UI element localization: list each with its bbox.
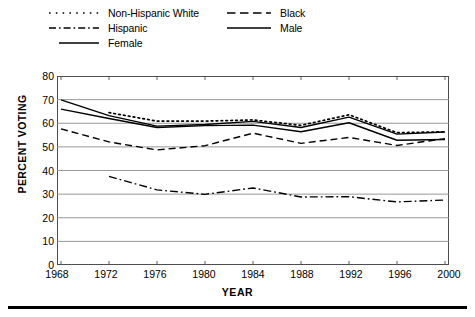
y-tick-20: 20	[28, 213, 54, 223]
legend-key-dash-dot-icon	[48, 22, 100, 34]
legend-label-hispanic: Hispanic	[108, 22, 147, 34]
plot-area	[57, 76, 449, 265]
x-tick-1980: 1980	[184, 269, 224, 280]
chart-legend: Non-Hispanic White Hispanic Female	[48, 6, 348, 52]
x-tick-1976: 1976	[135, 269, 175, 280]
y-axis-tick-labels: 0 10 20 30 40 50 60 70 80	[26, 76, 54, 266]
legend-label-male: Male	[280, 22, 302, 34]
y-tick-70: 70	[28, 95, 54, 105]
x-tick-1968: 1968	[37, 269, 77, 280]
legend-item-hispanic: Hispanic	[48, 21, 147, 35]
legend-label-non-hispanic-white: Non-Hispanic White	[108, 7, 199, 19]
y-tick-80: 80	[28, 71, 54, 81]
legend-item-non-hispanic-white: Non-Hispanic White	[48, 6, 199, 20]
x-axis-title: YEAR	[0, 286, 475, 298]
y-tick-10: 10	[28, 236, 54, 246]
series-line-hispanic	[109, 176, 445, 202]
x-tick-1972: 1972	[86, 269, 126, 280]
legend-label-black: Black	[280, 7, 305, 19]
x-axis-tick-labels: 1968 1972 1976 1980 1984 1988 1992 1996 …	[0, 269, 475, 283]
chart-container: Non-Hispanic White Hispanic Female	[0, 0, 475, 317]
series-line-non-hispanic-white	[109, 113, 445, 133]
legend-item-female: Female	[58, 36, 142, 50]
series-line-female	[61, 100, 445, 134]
x-tick-1984: 1984	[233, 269, 273, 280]
legend-key-solid-icon	[226, 22, 272, 34]
y-axis-title: PERCENT VOTING	[16, 74, 28, 214]
x-tick-1988: 1988	[282, 269, 322, 280]
y-tick-40: 40	[28, 166, 54, 176]
x-tick-1992: 1992	[331, 269, 371, 280]
footer-rule	[8, 306, 467, 309]
legend-key-dotted-icon	[48, 7, 100, 19]
x-tick-2000: 2000	[429, 269, 469, 280]
legend-item-male: Male	[226, 21, 302, 35]
legend-key-solid-icon	[58, 37, 100, 49]
legend-item-black: Black	[226, 6, 305, 20]
legend-label-female: Female	[108, 37, 142, 49]
x-tick-1996: 1996	[380, 269, 420, 280]
legend-key-dashed-icon	[226, 7, 272, 19]
plot-lines	[57, 76, 449, 265]
y-tick-50: 50	[28, 142, 54, 152]
y-tick-60: 60	[28, 118, 54, 128]
y-tick-30: 30	[28, 189, 54, 199]
